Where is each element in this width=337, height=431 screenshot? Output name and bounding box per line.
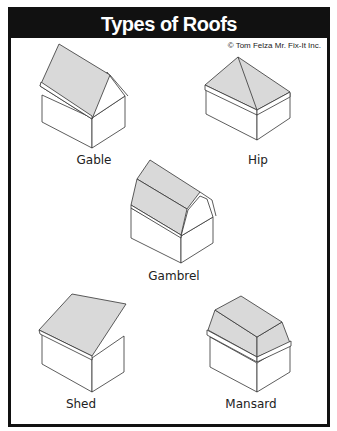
label-gable: Gable: [54, 153, 134, 167]
shed-house-icon: [39, 294, 126, 392]
label-hip: Hip: [218, 153, 298, 167]
label-gambrel: Gambrel: [134, 269, 214, 283]
label-shed: Shed: [41, 397, 121, 411]
mansard-house-icon: [207, 296, 291, 392]
roof-illustrations: [0, 0, 337, 431]
hip-house-icon: [205, 57, 290, 140]
gambrel-house-icon: [131, 160, 216, 263]
label-mansard: Mansard: [211, 397, 291, 411]
gable-house-icon: [40, 44, 128, 148]
